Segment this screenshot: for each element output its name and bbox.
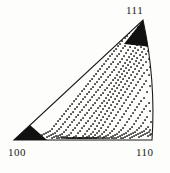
data-point [116, 95, 118, 97]
data-point [106, 68, 108, 70]
data-point [78, 137, 80, 139]
data-point [99, 105, 101, 107]
data-point [45, 132, 47, 134]
data-point [133, 63, 135, 65]
data-point [119, 108, 121, 110]
data-point [137, 32, 139, 34]
data-point [112, 93, 114, 95]
data-point [53, 136, 55, 138]
data-point [66, 137, 68, 139]
data-point [112, 101, 114, 103]
data-point [43, 133, 45, 135]
data-point [125, 67, 127, 69]
data-point [96, 81, 98, 83]
data-point [105, 135, 107, 137]
data-point [47, 131, 49, 133]
data-point [120, 97, 122, 99]
data-point [109, 123, 111, 125]
data-point [50, 134, 52, 136]
data-point [108, 137, 110, 139]
data-point [131, 126, 133, 128]
data-point [128, 77, 130, 79]
data-point [55, 135, 57, 137]
data-point [109, 55, 111, 57]
data-point [94, 128, 96, 130]
data-point [100, 127, 102, 129]
data-point [83, 106, 85, 108]
data-point [89, 99, 91, 101]
data-point [143, 72, 145, 74]
data-point [93, 94, 95, 96]
data-point [108, 107, 110, 109]
data-point [113, 69, 115, 71]
data-point [148, 42, 150, 44]
data-point [91, 96, 93, 98]
data-point [119, 61, 121, 63]
data-point [68, 137, 70, 139]
data-point [63, 137, 65, 139]
data-point [99, 135, 101, 137]
data-point [143, 30, 145, 32]
data-point [116, 133, 118, 135]
data-point [78, 103, 80, 105]
data-point [80, 119, 82, 121]
data-point [123, 133, 125, 135]
data-point [106, 102, 108, 104]
data-point [132, 79, 134, 81]
data-point [120, 50, 122, 52]
data-point [100, 94, 102, 96]
data-point [105, 129, 107, 131]
data-point [102, 73, 104, 75]
data-point [118, 131, 120, 133]
data-point [117, 136, 119, 138]
data-point [124, 37, 126, 39]
data-point [106, 110, 108, 112]
data-point [61, 133, 63, 135]
vertex-label-100: 100 [8, 147, 26, 158]
data-point [146, 91, 148, 93]
data-point [89, 117, 91, 119]
data-point [68, 116, 70, 118]
data-point [149, 129, 151, 131]
data-point [97, 107, 99, 109]
data-point [79, 130, 81, 132]
data-point [108, 115, 110, 117]
data-point [141, 131, 143, 133]
data-point [132, 132, 134, 134]
data-point [113, 50, 115, 52]
data-point [130, 115, 132, 117]
data-point [69, 105, 71, 107]
data-point [103, 81, 105, 83]
data-point [53, 125, 55, 127]
data-point [119, 135, 121, 137]
data-point [82, 98, 84, 100]
data-point [61, 137, 63, 139]
data-point [117, 45, 119, 47]
data-point [140, 125, 142, 127]
data-point [131, 136, 133, 138]
data-point [135, 52, 137, 54]
data-point [86, 93, 88, 95]
data-point [65, 110, 67, 112]
data-point [137, 81, 139, 83]
data-point [118, 53, 120, 55]
data-point [130, 74, 132, 76]
data-point [125, 99, 127, 101]
data-point [118, 71, 120, 73]
data-point [129, 46, 131, 48]
data-point [78, 122, 80, 124]
data-point [59, 118, 61, 120]
data-point [90, 125, 92, 127]
data-point [74, 108, 76, 110]
data-point [135, 95, 137, 97]
data-point [51, 128, 53, 130]
data-point [102, 108, 104, 110]
data-point [141, 111, 143, 113]
data-point [146, 116, 148, 118]
data-point [91, 137, 93, 139]
data-point [96, 125, 98, 127]
data-point [81, 127, 83, 129]
data-point [110, 82, 112, 84]
data-point [113, 117, 115, 119]
data-point [110, 63, 112, 65]
